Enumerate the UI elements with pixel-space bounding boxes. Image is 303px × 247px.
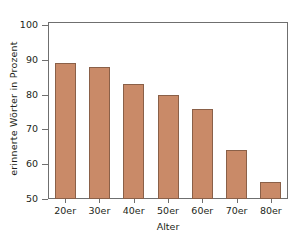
y-axis-title: erinnerte Wörter in Prozent xyxy=(4,0,22,232)
x-axis-title: Alter xyxy=(48,221,288,232)
y-axis-tick-label: 50 xyxy=(26,194,38,204)
bar xyxy=(158,95,179,199)
bar xyxy=(89,67,110,199)
y-axis-tick-label: 70 xyxy=(26,124,38,134)
bar xyxy=(55,63,76,199)
y-axis-tick-label: 100 xyxy=(20,20,38,30)
bar xyxy=(192,109,213,199)
x-axis-tick-label: 80er xyxy=(251,205,291,216)
x-axis-tick xyxy=(202,199,203,203)
x-axis-tick xyxy=(237,199,238,203)
y-axis-tick-label: 80 xyxy=(26,90,38,100)
x-axis-tick xyxy=(271,199,272,203)
y-axis-tick-label: 90 xyxy=(26,55,38,65)
x-axis-tick xyxy=(168,199,169,203)
bar-chart-figure: erinnerte Wörter in Prozent 506070809010… xyxy=(0,0,303,247)
x-axis-tick xyxy=(65,199,66,203)
bar xyxy=(226,150,247,199)
x-axis-tick xyxy=(99,199,100,203)
bar xyxy=(260,182,281,199)
x-axis-tick xyxy=(134,199,135,203)
y-axis-tick-label: 60 xyxy=(26,159,38,169)
plot-area xyxy=(48,22,288,199)
y-axis-tick xyxy=(42,199,48,200)
bar xyxy=(123,84,144,199)
